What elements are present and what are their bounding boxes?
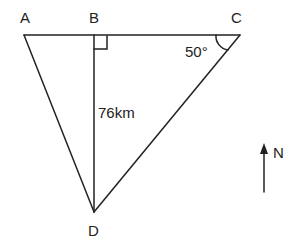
point-label-d: D: [88, 222, 99, 239]
length-label-bd: 76km: [98, 104, 135, 121]
north-arrow-icon: [260, 143, 268, 154]
angle-arc-c: [216, 35, 228, 50]
point-label-c: C: [231, 9, 242, 26]
right-angle-marker: [94, 36, 107, 49]
point-label-b: B: [89, 9, 99, 26]
angle-label-c: 50°: [185, 43, 208, 60]
segment-ad: [24, 35, 94, 212]
north-label: N: [273, 144, 284, 161]
point-label-a: A: [20, 9, 30, 26]
triangle-diagram: A B C D 76km 50° N: [0, 0, 291, 245]
segment-cd: [94, 35, 240, 212]
